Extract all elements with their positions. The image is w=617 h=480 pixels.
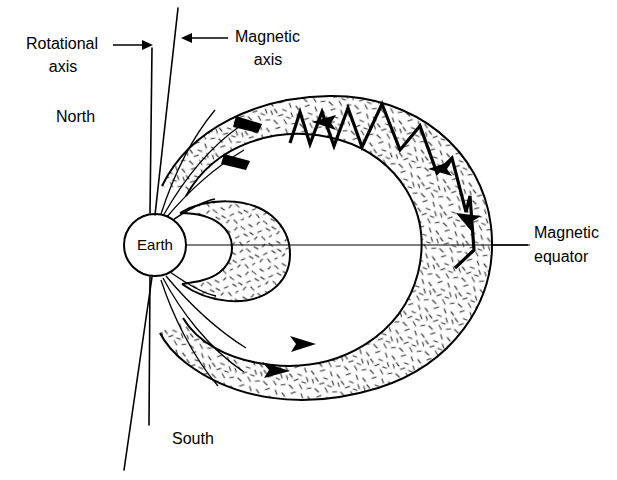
magnetic-equator-label-line2: equator — [534, 248, 589, 265]
rotational-axis-line-upper — [150, 48, 152, 213]
earth-label: Earth — [137, 236, 173, 253]
diagram-canvas: Earth Rotational axis Magnetic axis — [0, 0, 617, 480]
magnetic-axis-label-line2: axis — [254, 51, 282, 68]
magnetic-equator-label-line1: Magnetic — [534, 224, 599, 241]
belt-flow-arrow-bottom-inner — [290, 336, 316, 352]
outer-radiation-belt — [160, 96, 492, 400]
rotational-axis-label-line1: Rotational — [26, 35, 98, 52]
magnetic-axis-line-lower — [124, 277, 152, 470]
north-label: North — [56, 108, 95, 125]
magnetic-axis-callout — [181, 33, 228, 43]
rotational-axis-label-line2: axis — [49, 58, 77, 75]
earth-body: Earth — [124, 214, 186, 276]
magnetic-axis-label-line1: Magnetic — [235, 28, 300, 45]
van-allen-belts-figure: Earth Rotational axis Magnetic axis — [0, 0, 617, 480]
outer-belt-fill — [160, 96, 492, 400]
south-label: South — [172, 430, 214, 447]
magnetic-axis-arrow-head — [181, 33, 192, 43]
rotational-axis-callout — [113, 40, 153, 50]
inner-radiation-belt — [180, 201, 290, 301]
